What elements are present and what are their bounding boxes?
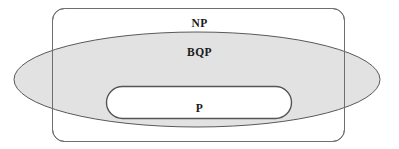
np-region-label: NP (0, 17, 399, 29)
bqp-region-label: BQP (0, 46, 399, 58)
p-region-label: P (0, 102, 399, 114)
complexity-class-diagram: NP BQP P (0, 0, 399, 149)
